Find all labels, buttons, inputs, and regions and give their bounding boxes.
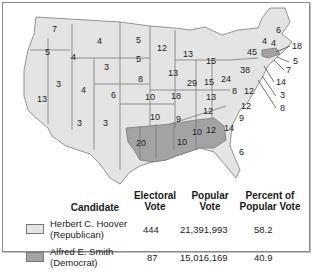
candidate-party: (Democrat) [50, 257, 98, 268]
label-WI: 13 [183, 49, 193, 59]
label-NE: 8 [138, 74, 143, 84]
label-KY: 13 [206, 92, 216, 102]
label-VA: 12 [244, 86, 254, 96]
label-PA: 38 [240, 65, 250, 75]
label-NH: 4 [271, 38, 276, 48]
us-electoral-map: 7 5 13 4 3 4 3 4 6 3 3 5 5 8 10 10 20 12… [0, 0, 313, 190]
label-NV: 3 [56, 79, 61, 89]
label-MN: 12 [157, 43, 167, 53]
electoral-vote: 444 [143, 224, 159, 235]
label-NJ: 14 [276, 77, 286, 87]
percent-popular: 58.2 [254, 224, 273, 235]
label-MO: 18 [171, 91, 181, 101]
popular-vote: 15,016,169 [180, 252, 228, 263]
header-electoral-line2: Vote [130, 201, 180, 212]
label-ND: 5 [136, 35, 141, 45]
label-NC: 12 [241, 101, 251, 111]
label-TX: 20 [136, 138, 146, 148]
electoral-vote: 87 [147, 252, 158, 263]
candidate-name: Alfred E. Smith [50, 246, 113, 257]
label-MT: 4 [97, 36, 102, 46]
label-VT: 4 [262, 36, 267, 46]
label-CT: 7 [286, 65, 291, 75]
label-AL: 12 [206, 125, 216, 135]
label-DE: 3 [280, 90, 285, 100]
label-LA: 10 [177, 137, 187, 147]
label-RI: 5 [293, 56, 298, 66]
label-WV: 8 [232, 86, 237, 96]
label-NM: 3 [103, 118, 108, 128]
label-CA: 13 [37, 94, 47, 104]
label-ME: 6 [276, 25, 281, 35]
label-MI: 15 [206, 56, 216, 66]
header-popular-line1: Popular [180, 190, 240, 201]
label-ID: 4 [71, 52, 76, 62]
label-WA: 7 [52, 24, 57, 34]
map-svg: 7 5 13 4 3 4 3 4 6 3 3 5 5 8 10 10 20 12… [0, 0, 313, 190]
label-IA: 13 [168, 68, 178, 78]
label-AZ: 3 [77, 118, 82, 128]
label-OR: 5 [45, 47, 50, 57]
label-SC: 9 [239, 113, 244, 123]
label-NY: 45 [247, 47, 257, 57]
label-AR: 9 [176, 114, 181, 124]
label-CO: 6 [111, 90, 116, 100]
label-SD: 5 [136, 54, 141, 64]
label-OH: 24 [221, 74, 231, 84]
header-candidate: Candidate [55, 202, 135, 213]
label-FL: 6 [239, 147, 244, 157]
hoover-swatch [26, 224, 44, 234]
smith-swatch [26, 252, 44, 262]
label-WY: 3 [104, 62, 109, 72]
label-GA: 14 [224, 123, 234, 133]
header-percent-line2: Popular Vote [232, 201, 308, 212]
label-OK: 10 [150, 112, 160, 122]
popular-vote: 21,391,993 [180, 224, 228, 235]
label-KS: 10 [145, 92, 155, 102]
percent-popular: 40.9 [254, 252, 273, 263]
label-TN: 12 [203, 106, 213, 116]
label-UT: 4 [81, 85, 86, 95]
candidate-party: (Republican) [50, 229, 104, 240]
label-MS: 10 [192, 127, 202, 137]
header-percent-line1: Percent of [232, 190, 308, 201]
label-IL: 29 [187, 78, 197, 88]
label-MD: 8 [280, 103, 285, 113]
header-electoral-line1: Electoral [130, 190, 180, 201]
candidate-name: Herbert C. Hoover [50, 218, 127, 229]
label-MA: 18 [292, 41, 302, 51]
label-IN: 15 [204, 77, 214, 87]
header-popular-line2: Vote [180, 201, 240, 212]
